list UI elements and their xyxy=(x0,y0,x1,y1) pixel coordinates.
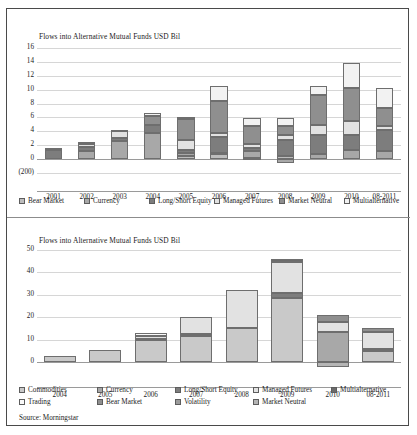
bar-column xyxy=(243,41,260,173)
bar-segment xyxy=(376,130,393,151)
bar-segment xyxy=(210,133,227,136)
bar-segment xyxy=(277,159,294,162)
bar-segment xyxy=(317,332,349,362)
legend-item[interactable]: Trading xyxy=(19,398,51,406)
bar-segment xyxy=(177,117,194,119)
bar-segment xyxy=(177,119,194,141)
bar-segment xyxy=(277,135,294,139)
legend-label: Market Neutral xyxy=(288,197,332,205)
bar-segment xyxy=(45,150,62,159)
y-axis-tick-label: 10 xyxy=(9,335,34,343)
y-axis-tick-label: 2 xyxy=(9,140,34,148)
bar-column xyxy=(317,245,349,369)
source-note: Source: Morningstar xyxy=(19,414,78,422)
legend-item[interactable]: Managed Futures xyxy=(214,197,273,205)
bar-column xyxy=(180,245,212,369)
bar-segment xyxy=(180,334,212,336)
legend-label: Long/Short Equity xyxy=(158,197,212,205)
bar-segment xyxy=(177,150,194,153)
bar-segment xyxy=(226,328,258,362)
legend-item[interactable]: Multialternative xyxy=(331,386,386,394)
figure-frame: Flows into Alternative Mutual Funds USD … xyxy=(6,8,409,426)
bar-segment xyxy=(376,108,393,126)
legend-item[interactable]: Managed Futures xyxy=(253,386,312,394)
x-axis-line xyxy=(37,191,401,192)
bar-segment xyxy=(376,151,393,159)
legend-item[interactable]: Multialternative xyxy=(344,197,399,205)
bar-segment xyxy=(111,130,128,132)
y-axis-tick-label: 8 xyxy=(9,99,34,107)
bar-segment xyxy=(277,140,294,157)
bar-segment xyxy=(343,121,360,135)
legend-label: Bear Market xyxy=(106,398,142,406)
bar-segment xyxy=(177,140,194,150)
legend-item[interactable]: Market Neutral xyxy=(279,197,332,205)
legend-item[interactable]: Currency xyxy=(97,386,133,394)
legend-item[interactable]: Long/Short Equity xyxy=(149,197,212,205)
bar-segment xyxy=(135,340,167,362)
bar-segment xyxy=(243,118,260,126)
bar-column xyxy=(45,41,62,173)
bar-segment xyxy=(317,315,349,322)
legend-swatch-icon xyxy=(253,399,259,405)
bar-segment xyxy=(343,150,360,159)
y-axis-tick-label: 0 xyxy=(9,357,34,365)
legend-item[interactable]: Commodities xyxy=(19,386,67,394)
legend-swatch-icon xyxy=(19,399,25,405)
bar-segment xyxy=(310,154,327,160)
y-axis-tick-label: 0 xyxy=(9,154,34,162)
legend-label: Managed Futures xyxy=(262,386,312,394)
legend-label: Commodities xyxy=(28,386,67,394)
y-axis-tick-label: 6 xyxy=(9,112,34,120)
bottom-chart-title: Flows into Alternative Mutual Funds USD … xyxy=(39,236,180,245)
bar-segment xyxy=(45,148,62,150)
bar-segment xyxy=(310,86,327,95)
top-chart-legend: Bear MarketCurrencyLong/Short EquityMana… xyxy=(19,197,409,211)
bar-segment xyxy=(210,86,227,101)
bar-segment xyxy=(210,101,227,133)
bar-column xyxy=(343,41,360,173)
legend-swatch-icon xyxy=(344,198,350,204)
legend-swatch-icon xyxy=(84,198,90,204)
y-axis-tick-label: 40 xyxy=(9,267,34,275)
bar-segment xyxy=(226,290,258,328)
bar-segment xyxy=(277,118,294,126)
bar-segment xyxy=(362,332,394,349)
legend-label: Managed Futures xyxy=(223,197,273,205)
legend-item[interactable]: Market Neutral xyxy=(253,398,306,406)
bar-column xyxy=(310,41,327,173)
bar-column xyxy=(44,245,76,369)
y-axis-tick-label: 4 xyxy=(9,126,34,134)
bar-segment xyxy=(243,126,260,143)
y-axis-tick-label: 50 xyxy=(9,245,34,253)
legend-item[interactable]: Bear Market xyxy=(97,398,142,406)
bar-segment xyxy=(317,362,349,367)
bar-column xyxy=(277,41,294,173)
bar-segment xyxy=(135,339,167,341)
legend-item[interactable]: Currency xyxy=(84,197,120,205)
legend-swatch-icon xyxy=(175,399,181,405)
legend-swatch-icon xyxy=(19,387,25,393)
legend-label: Multialternative xyxy=(340,386,386,394)
bar-segment xyxy=(78,151,95,159)
bar-segment xyxy=(111,141,128,159)
legend-item[interactable]: Long/Short Equity xyxy=(175,386,238,394)
bar-segment xyxy=(144,133,161,159)
bar-segment xyxy=(376,88,393,107)
bar-segment xyxy=(362,351,394,362)
bar-segment xyxy=(210,154,227,159)
y-axis-tick-label: 20 xyxy=(9,312,34,320)
legend-item[interactable]: Volatility xyxy=(175,398,211,406)
bar-segment xyxy=(271,262,303,293)
bar-column xyxy=(135,245,167,369)
bar-segment xyxy=(317,322,349,332)
figure-page: Flows into Alternative Mutual Funds USD … xyxy=(0,0,417,435)
y-axis-tick-label: 12 xyxy=(9,71,34,79)
bar-segment xyxy=(271,259,303,263)
y-axis-tick-label: 30 xyxy=(9,290,34,298)
bar-segment xyxy=(243,151,260,157)
legend-swatch-icon xyxy=(19,198,25,204)
legend-item[interactable]: Bear Market xyxy=(19,197,64,205)
bar-segment xyxy=(135,336,167,338)
bar-segment xyxy=(243,148,260,151)
